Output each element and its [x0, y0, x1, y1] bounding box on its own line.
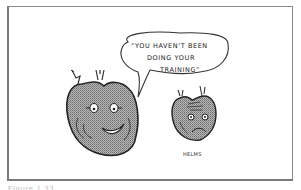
cartoon-illustration: “YOU HAVEN'T BEEN DOING YOUR TRAINING”: [0, 0, 301, 190]
speech-bubble: “YOU HAVEN'T BEEN DOING YOUR TRAINING”: [121, 32, 228, 97]
figure-caption: Figure 1.33: [8, 185, 54, 190]
speech-line-2: DOING YOUR: [147, 54, 195, 62]
speech-line-3: TRAINING”: [159, 66, 200, 74]
artist-signature: HELMS: [183, 151, 202, 157]
smiling-heart: [67, 70, 138, 155]
speech-line-1: “YOU HAVEN'T BEEN: [131, 42, 208, 50]
worried-heart: HELMS: [172, 86, 216, 157]
